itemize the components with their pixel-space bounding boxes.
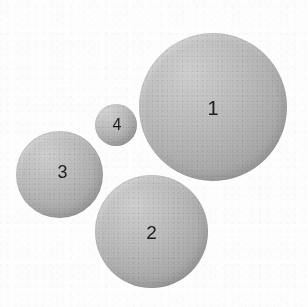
sphere-1: 1 [139, 33, 287, 181]
sphere-2-label: 2 [95, 176, 208, 289]
figure-canvas: 3 4 1 2 [0, 0, 308, 307]
sphere-2: 2 [95, 175, 208, 288]
sphere-4-label: 4 [96, 104, 138, 146]
sphere-4: 4 [95, 104, 137, 146]
sphere-1-label: 1 [139, 34, 287, 182]
sphere-3: 3 [16, 131, 103, 218]
sphere-3-label: 3 [19, 129, 106, 216]
